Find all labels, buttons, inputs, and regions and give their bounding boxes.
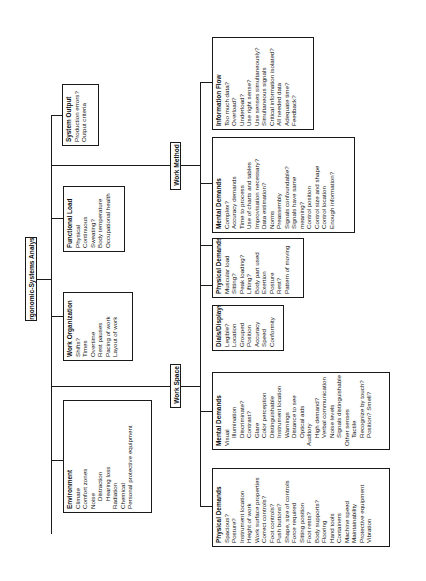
- connector-ws-physical: [200, 506, 212, 507]
- connector-work-organization: [51, 316, 63, 317]
- ws-physical-demands-title: Physical Demands: [215, 470, 223, 543]
- information-flow-title: Information Flow: [215, 39, 223, 126]
- dials-displays-title: Dials/Displays: [215, 307, 223, 347]
- list-item: Legible?: [223, 307, 231, 347]
- work-organization-title: Work Organization: [66, 294, 74, 357]
- work-method-label: Work Method: [173, 144, 181, 186]
- list-item: Force required: [290, 470, 298, 543]
- list-item: Hand tools: [328, 470, 336, 543]
- list-item: Comfort zones: [81, 402, 89, 509]
- list-item: Noise: [89, 402, 97, 509]
- list-item: Glare: [253, 374, 261, 446]
- ws-mental-demands-title: Mental Demands: [215, 374, 223, 446]
- list-item: Lifting?: [245, 240, 253, 294]
- list-item: Accuracy demands: [230, 139, 238, 229]
- connector-trunk: [51, 115, 52, 534]
- connector-root: [37, 279, 52, 280]
- work-space-label: Work Space: [173, 366, 181, 404]
- connector-wm-physical: [200, 245, 212, 246]
- list-item: Radiation: [111, 402, 119, 509]
- list-item: Control position: [305, 139, 313, 229]
- list-item: Data estimation?: [260, 139, 268, 229]
- list-item: Visual: [223, 374, 231, 446]
- list-item: Control location: [320, 139, 328, 229]
- list-item: Discriminate?: [238, 374, 246, 446]
- list-item: High demand?: [313, 374, 321, 446]
- list-item: Maintainability: [350, 470, 358, 543]
- environment-box: Environment Climate Comfort zones Noise …: [63, 400, 152, 513]
- list-item: Adequate time?: [283, 39, 291, 126]
- list-item: Sitting position: [298, 470, 306, 543]
- list-item: All needed data: [275, 39, 283, 126]
- list-item: Production errors?: [73, 86, 81, 142]
- list-item: Simultaneous signals: [260, 39, 268, 126]
- list-item: Enough information?: [328, 139, 336, 229]
- connector-functional-load: [51, 218, 63, 219]
- connector-dials: [200, 285, 212, 286]
- root-label: Ergonomic-Systems Analysis: [28, 237, 36, 321]
- work-organization-box: Work Organization Shifts? Times Overtime…: [63, 292, 133, 361]
- list-item: Use of charts and tables: [245, 139, 253, 229]
- list-item: Norms: [268, 139, 276, 229]
- connector-wm-mental: [200, 183, 212, 184]
- list-item: Optical aids: [298, 374, 306, 446]
- list-item: Push buttons?: [275, 470, 283, 543]
- list-item: Distance to see: [290, 374, 298, 446]
- list-item: Output criteria: [80, 86, 88, 142]
- functional-load-box: Functional Load Physical Continuous Swea…: [63, 186, 125, 252]
- list-item: Body supports?: [313, 470, 321, 543]
- list-item: Illumination: [230, 374, 238, 446]
- list-item: Shifts?: [74, 294, 82, 357]
- connector-ws-trunk: [200, 285, 201, 507]
- list-item: Too much data?: [223, 39, 231, 126]
- list-item: Posture?: [230, 470, 238, 543]
- connector-environment: [51, 460, 63, 461]
- list-item: Correct controls?: [260, 470, 268, 543]
- list-item: Instrument location: [238, 470, 246, 543]
- list-item: Auditory: [305, 374, 313, 446]
- list-item: Use senses simultaneously?: [253, 39, 261, 126]
- list-item: Overtime: [89, 294, 97, 357]
- list-item: Signals have same: [290, 139, 298, 229]
- list-item: Tactile: [350, 374, 358, 446]
- connector-work-space: [51, 386, 172, 387]
- wm-physical-demands-title: Physical Demands: [215, 240, 223, 294]
- list-item: Complex?: [223, 139, 231, 229]
- list-item: Protective equipment: [358, 470, 366, 543]
- list-item: Foot rests?: [305, 470, 313, 543]
- list-item: Signals confoundable?: [283, 139, 291, 229]
- list-item: Color perception: [260, 374, 268, 446]
- list-item: Verbal communication: [320, 374, 328, 446]
- connector-ws-mental: [200, 411, 212, 412]
- list-item: Critical information isolated?: [268, 39, 276, 126]
- list-item: Rest?: [275, 240, 283, 294]
- list-item: Chemical: [119, 402, 127, 509]
- list-item: Pacing of work: [104, 294, 112, 357]
- list-item: Use right sense?: [245, 39, 253, 126]
- list-item: Grouped: [238, 307, 246, 347]
- root-node: Ergonomic-Systems Analysis: [25, 237, 37, 321]
- system-output-box: System Output Production errors? Output …: [62, 84, 99, 146]
- list-item: Vibration: [365, 470, 373, 543]
- list-item: Signals distinguishable: [335, 374, 343, 446]
- list-item: Position: [245, 307, 253, 347]
- list-item: Conformity: [268, 307, 276, 347]
- list-item: Height of work: [245, 470, 253, 543]
- list-item: Distraction: [96, 402, 104, 509]
- list-item: Flooring: [320, 470, 328, 543]
- ws-mental-demands-box: Mental Demands Visual Illumination Discr…: [212, 372, 390, 450]
- list-item: Preassembly: [275, 139, 283, 229]
- list-item: Accuracy: [253, 307, 261, 347]
- list-item: Layout of work: [111, 294, 119, 357]
- list-item: Foot controls?: [268, 470, 276, 543]
- connector-info-flow: [200, 82, 212, 83]
- list-item: Posture: [268, 240, 276, 294]
- wm-physical-demands-box: Physical Demands Muscular load Sitting? …: [212, 238, 304, 298]
- ws-physical-demands-box: Physical Demands Spacious? Posture? Inst…: [212, 468, 390, 547]
- list-item: Body temperature: [96, 188, 104, 248]
- work-method-node: Work Method: [170, 142, 181, 190]
- list-item: meaning?: [298, 139, 306, 229]
- list-item: Climate: [74, 402, 82, 509]
- list-item: Other senses: [343, 374, 351, 446]
- list-item: Underload?: [238, 39, 246, 126]
